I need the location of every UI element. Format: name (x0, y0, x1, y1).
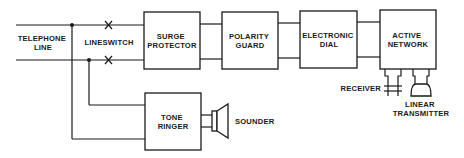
tone-ringer-label: TONE RINGER (158, 113, 189, 131)
speaker-icon (201, 104, 228, 138)
junction-dot-icon (70, 23, 74, 27)
active-network-label: ACTIVE NETWORK (388, 31, 429, 49)
receiver-label: RECEIVER (341, 84, 382, 93)
junction-dot-icon (87, 58, 91, 62)
block-diagram: TELEPHONE LINE LINESWITCH SURGE PROTECTO… (0, 0, 464, 158)
microphone-icon (411, 69, 431, 96)
linear-transmitter-label: LINEAR TRANSMITTER (393, 100, 450, 118)
sounder-label: SOUNDER (235, 117, 275, 126)
telephone-line-label: TELEPHONE LINE (18, 34, 69, 52)
lineswitch-label: LINESWITCH (84, 38, 133, 47)
earpiece-icon (384, 69, 402, 96)
